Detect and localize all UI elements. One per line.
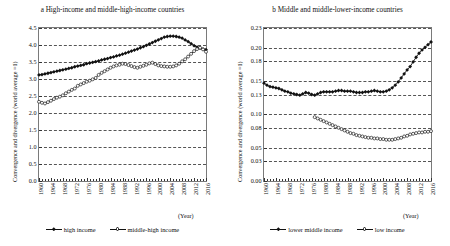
data-point-marker [352,132,355,135]
data-point-marker [352,90,356,94]
data-point-marker [349,89,353,93]
x-tick-label: 2000 [382,183,388,195]
data-point-marker [421,131,424,134]
data-point-marker [409,133,412,136]
y-tick-label: 0.23 [251,25,262,31]
x-tick-label: 1984 [335,183,341,195]
data-point-marker [88,79,91,82]
x-tick-label: 1992 [134,183,140,195]
x-tick-label: 1988 [347,183,353,195]
data-point-marker [175,64,178,67]
data-point-marker [91,78,94,81]
data-point-marker [202,48,205,51]
y-tick-label: 0.10 [251,111,262,117]
x-axis-label-b: (Year) [403,212,419,219]
data-point-marker [151,61,154,64]
data-point-marker [73,87,76,90]
data-point-marker [121,52,125,56]
data-point-marker [394,138,397,141]
data-point-marker [133,48,137,52]
chart-title-a: a High-income and middle-high-income cou… [0,6,225,14]
data-point-marker [334,89,338,93]
data-point-marker [94,60,98,64]
data-point-marker [64,92,67,95]
legend-label-lower-middle-income: lower middle income [288,226,342,233]
y-tick-label: 1.5 [29,127,37,133]
data-point-marker [271,85,275,89]
x-tick-label: 2016 [205,183,211,195]
legend-item-high-income[interactable]: high income [46,226,96,233]
x-tick-label: 1972 [74,183,80,195]
x-tick-label: 1964 [275,183,281,195]
chart-title-b: b Middle and middle-lower-income countri… [225,6,450,14]
data-point-marker [52,98,55,101]
data-point-marker [58,95,61,98]
data-point-marker [322,120,325,123]
data-point-marker [172,65,175,68]
data-point-marker [76,84,79,87]
legend-item-low-income[interactable]: low income [357,226,405,233]
data-point-marker [361,91,365,95]
data-point-marker [40,101,43,104]
legend-item-lower-middle-income[interactable]: lower middle income [270,226,342,233]
data-point-marker [112,65,115,68]
data-point-marker [376,137,379,140]
data-point-marker [118,63,121,66]
data-point-marker [88,61,92,65]
data-point-marker [115,64,118,67]
data-point-marker [97,59,101,63]
data-point-marker [193,50,196,53]
data-point-marker [343,129,346,132]
data-point-marker [85,62,89,66]
y-tick-label: 1.0 [29,144,37,150]
data-point-marker [106,68,109,71]
x-tick-label: 1992 [359,183,365,195]
data-point-marker [160,65,163,68]
x-tick-label: 1996 [371,183,377,195]
data-point-marker [274,86,278,90]
data-point-marker [55,96,58,99]
y-tick-mark [39,181,42,182]
x-tick-label: 1980 [323,183,329,195]
x-tick-label: 2000 [157,183,163,195]
data-point-marker [79,63,83,67]
chart-panel-a: a High-income and middle-high-income cou… [0,0,225,246]
data-point-marker [130,65,133,68]
data-point-marker [70,66,74,70]
y-tick-label: 0.08 [251,125,262,131]
data-point-marker [180,36,184,40]
data-point-marker [369,89,373,93]
chart-panel-b: b Middle and middle-lower-income countri… [225,0,450,246]
plot-area-a: 0.00.51.01.52.02.53.03.54.04.51960196419… [38,27,207,182]
x-tick-label: 1976 [311,183,317,195]
data-point-marker [46,71,50,75]
legend-item-middle-high-income[interactable]: middle-high income [110,226,180,233]
data-point-marker [381,90,385,94]
data-point-marker [358,134,361,137]
legend-marker-open-circle-icon [110,226,126,233]
y-tick-label: 2.5 [29,93,37,99]
data-point-marker [403,135,406,138]
data-point-marker [49,71,53,75]
data-point-marker [178,62,181,65]
data-point-marker [366,90,370,94]
legend-label-high-income: high income [64,226,96,233]
x-tick-label: 1976 [86,183,92,195]
x-tick-label: 1980 [98,183,104,195]
legend-marker-filled-diamond-icon [46,226,62,233]
data-point-marker [130,49,134,53]
data-point-marker [55,69,59,73]
data-point-marker [100,58,104,62]
y-axis-label-a: Convergence and divergence (world averag… [11,61,18,182]
data-point-marker [49,99,52,102]
data-point-marker [145,63,148,66]
legend-marker-filled-diamond-icon [270,226,286,233]
data-point-marker [412,132,415,135]
data-point-marker [100,71,103,74]
data-point-marker [400,136,403,139]
data-point-marker [361,135,364,138]
y-tick-label: 0.0 [29,178,37,184]
data-point-marker [340,89,344,93]
data-point-marker [337,126,340,129]
data-point-marker [379,138,382,141]
